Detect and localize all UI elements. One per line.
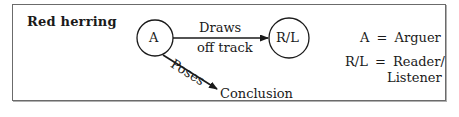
- legend-value-listener: Listener: [387, 70, 442, 85]
- node-arguer-label: A: [149, 30, 158, 45]
- legend-equals: =: [375, 54, 386, 69]
- legend-row-arguer: A = Arguer: [360, 30, 441, 45]
- legend-equals: =: [377, 30, 388, 45]
- node-reader-listener-label: R/L: [276, 30, 299, 45]
- legend-key-rl: R/L: [345, 54, 368, 69]
- edge-draws-label-line2: off track: [197, 40, 253, 55]
- node-conclusion-label: Conclusion: [220, 86, 293, 101]
- legend-value-arguer: Arguer: [395, 30, 441, 45]
- legend-key-a: A: [360, 30, 369, 45]
- legend-value-reader: Reader/: [393, 54, 445, 69]
- edge-draws-label-line1: Draws: [199, 20, 241, 35]
- legend-row-reader-listener: R/L = Reader/: [345, 54, 445, 69]
